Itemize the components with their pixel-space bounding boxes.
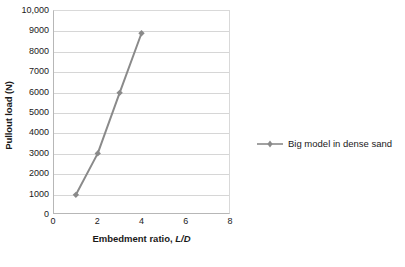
plot-area	[53, 10, 230, 214]
chart-legend: Big model in dense sand	[257, 138, 392, 149]
legend-marker-icon	[257, 139, 283, 149]
x-axis-tick-label: 2	[95, 216, 100, 227]
x-axis-title-symbol: L/D	[175, 233, 190, 244]
x-axis-title: Embedment ratio, L/D	[53, 233, 230, 244]
series-plot	[54, 11, 229, 213]
x-axis-tick-labels: 02468	[53, 216, 230, 230]
chart-container: Pullout load (N) 01000200030004000500060…	[0, 0, 405, 267]
y-axis-tick-label: 7000	[29, 67, 49, 76]
y-axis-tick-label: 8000	[29, 46, 49, 55]
y-axis-tick-label: 0	[44, 210, 49, 219]
y-axis-tick-label: 4000	[29, 128, 49, 137]
y-axis-tick-labels: 010002000300040005000600070008000900010,…	[14, 10, 52, 214]
x-axis-tick-label: 6	[183, 216, 188, 227]
data-point-marker	[116, 90, 122, 96]
series-line	[76, 33, 142, 195]
x-axis-title-label: Embedment ratio,	[92, 233, 172, 244]
y-axis-tick-label: 2000	[29, 169, 49, 178]
x-axis-tick-label: 0	[50, 216, 55, 227]
y-axis-title-label: Pullout load (N)	[3, 81, 14, 150]
y-axis-tick-label: 6000	[29, 87, 49, 96]
x-axis-tick-label: 4	[139, 216, 144, 227]
y-axis-tick-label: 9000	[29, 26, 49, 35]
x-axis-tick-label: 8	[227, 216, 232, 227]
data-point-marker	[138, 30, 144, 36]
y-axis-tick-label: 1000	[29, 189, 49, 198]
y-axis-tick-label: 10,000	[21, 6, 49, 15]
y-axis-tick-label: 3000	[29, 148, 49, 157]
y-axis-tick-label: 5000	[29, 108, 49, 117]
legend-item-label: Big model in dense sand	[288, 138, 392, 149]
